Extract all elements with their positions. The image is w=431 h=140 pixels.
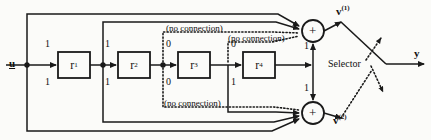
- output-label-y: y: [414, 47, 420, 59]
- diagram-canvas: u y r1 r2 r3 r4 1 1 1 1 0 0 0 1 1 1 (no …: [0, 0, 431, 140]
- block-label-r2: r2: [118, 52, 150, 78]
- bit-label-sum-top-feed: 1: [304, 40, 309, 51]
- selector-switch[interactable]: [341, 22, 424, 118]
- selector-arm-b[interactable]: [371, 66, 383, 92]
- block-label-r3: r3: [178, 52, 210, 78]
- annotation-no-connection-2: (no connection): [228, 33, 285, 43]
- input-label-u: u: [9, 57, 15, 69]
- bit-label-r4-bottom: 1: [231, 76, 236, 87]
- sum-outputs: [324, 22, 341, 118]
- annotation-no-connection-3: (no connection): [164, 98, 221, 108]
- bit-label-r3-top: 0: [166, 38, 171, 49]
- bit-label-r1-bottom: 1: [45, 76, 50, 87]
- bit-label-r3-bottom: 0: [166, 76, 171, 87]
- selector-arm-c[interactable]: [341, 70, 372, 118]
- sum-top-symbol: +: [309, 23, 316, 39]
- bit-label-r1-top: 1: [45, 38, 50, 49]
- signal-label-v2: v(2): [333, 113, 347, 126]
- tap-dot-r2-out: [160, 62, 165, 67]
- block-label-r4: r4: [243, 52, 275, 78]
- bit-label-sum-bottom-feed: 1: [304, 82, 309, 93]
- wire-v1-out: [324, 22, 341, 31]
- sum-bottom-symbol: +: [309, 105, 316, 121]
- selector-label: Selector: [328, 58, 361, 69]
- signal-label-v1: v(1): [336, 4, 350, 17]
- annotation-no-connection-1: (no connection): [166, 23, 223, 33]
- bit-label-r2-bottom: 1: [105, 76, 110, 87]
- bit-label-r2-top: 1: [105, 38, 110, 49]
- block-label-r1: r1: [58, 52, 90, 78]
